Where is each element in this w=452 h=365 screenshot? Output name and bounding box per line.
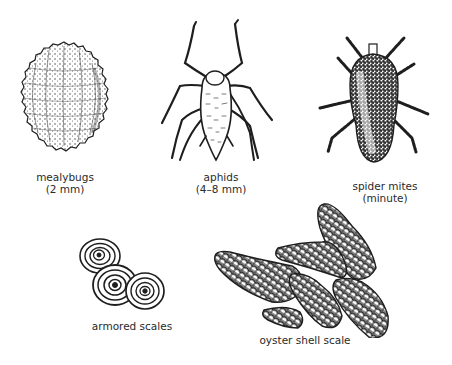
mealybugs-size: (2 mm): [28, 183, 102, 195]
aphids-label: aphids (4–8 mm): [181, 171, 261, 195]
oyster-shell-6: [263, 307, 303, 328]
armored-scales-label: armored scales: [80, 320, 184, 332]
armored-scale-right: [126, 273, 164, 309]
aphids-name: aphids: [181, 171, 261, 183]
oyster-shell-scale-name: oyster shell scale: [245, 334, 365, 346]
oyster-shell-scale-label: oyster shell scale: [245, 334, 365, 346]
oyster-shell-5: [333, 278, 388, 338]
armored-scales-illustration: [72, 234, 172, 314]
mealybugs-name: mealybugs: [28, 171, 102, 183]
spider-mites-name: spider mites: [340, 180, 430, 192]
aphids-size: (4–8 mm): [181, 183, 261, 195]
mealybug-illustration: [14, 38, 114, 158]
mealybugs-label: mealybugs (2 mm): [28, 171, 102, 195]
spider-mite-illustration: [312, 30, 442, 170]
oyster-shell-scale-illustration: [212, 198, 422, 338]
armored-scales-name: armored scales: [80, 320, 184, 332]
aphid-illustration: [150, 8, 285, 168]
